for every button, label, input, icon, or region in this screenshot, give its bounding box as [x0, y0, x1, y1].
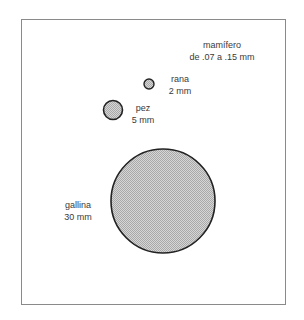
egg-pez-circle: [104, 101, 123, 120]
label-pez-name: pez: [125, 102, 161, 114]
egg-rana-circle: [144, 79, 154, 89]
label-pez: pez 5 mm: [125, 102, 161, 126]
label-pez-size: 5 mm: [125, 114, 161, 126]
egg-gallina-circle: [111, 149, 215, 253]
label-gallina-name: gallina: [58, 199, 98, 211]
label-gallina: gallina 30 mm: [58, 199, 98, 223]
label-mamifero: mamífero de .07 a .15 mm: [186, 39, 258, 63]
label-mamifero-name: mamífero: [186, 39, 258, 51]
label-mamifero-size: de .07 a .15 mm: [186, 51, 258, 63]
label-rana-size: 2 mm: [160, 85, 200, 97]
egg-size-diagram: [0, 0, 304, 320]
label-rana-name: rana: [160, 73, 200, 85]
label-gallina-size: 30 mm: [58, 211, 98, 223]
label-rana: rana 2 mm: [160, 73, 200, 97]
